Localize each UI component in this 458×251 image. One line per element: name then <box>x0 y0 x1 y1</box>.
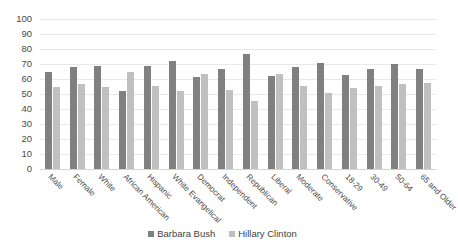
bar[interactable] <box>119 91 126 169</box>
bar[interactable] <box>102 87 109 169</box>
y-axis-tick: 60 <box>21 74 32 84</box>
bar-group <box>411 19 436 169</box>
bar-group <box>288 19 313 169</box>
bar[interactable] <box>317 63 324 170</box>
bar[interactable] <box>45 72 52 170</box>
y-axis-tick: 50 <box>21 89 32 99</box>
bar-group <box>213 19 238 169</box>
legend-swatch-icon <box>229 231 235 237</box>
x-axis-slot: Independent <box>213 171 238 223</box>
y-axis-tick: 10 <box>21 149 32 159</box>
x-axis-slot: African American <box>114 171 139 223</box>
x-axis-slot: 50-64 <box>387 171 412 223</box>
bar[interactable] <box>251 101 258 169</box>
y-axis-tick: 30 <box>21 119 32 129</box>
y-axis: 1009080706050403020100 <box>0 19 36 169</box>
bar-group <box>114 19 139 169</box>
bar-group <box>189 19 214 169</box>
bar[interactable] <box>300 86 307 169</box>
plot-area <box>40 19 436 169</box>
bar[interactable] <box>144 66 151 170</box>
bar-group <box>164 19 189 169</box>
bar[interactable] <box>218 69 225 170</box>
x-axis-slot: White <box>90 171 115 223</box>
bar[interactable] <box>169 61 176 169</box>
y-axis-tick: 0 <box>27 164 32 174</box>
bar[interactable] <box>342 75 349 169</box>
bar[interactable] <box>193 77 200 169</box>
y-axis-tick: 20 <box>21 134 32 144</box>
bar[interactable] <box>226 90 233 170</box>
x-axis-slot: Liberal <box>263 171 288 223</box>
x-axis: MaleFemaleWhiteAfrican AmericanHispanicW… <box>40 171 436 223</box>
bar[interactable] <box>53 87 60 169</box>
x-axis-slot: Conservative <box>312 171 337 223</box>
bar-group <box>238 19 263 169</box>
y-axis-tick: 100 <box>16 14 32 24</box>
legend-item[interactable]: Hillary Clinton <box>229 229 297 239</box>
bar[interactable] <box>127 72 134 169</box>
bar-group <box>312 19 337 169</box>
bar[interactable] <box>152 86 159 169</box>
bar[interactable] <box>78 84 85 170</box>
bar[interactable] <box>292 67 299 169</box>
x-axis-slot: White Evangelical <box>164 171 189 223</box>
bar-group <box>40 19 65 169</box>
legend-swatch-icon <box>148 231 154 237</box>
bar[interactable] <box>268 76 275 169</box>
bar-group <box>263 19 288 169</box>
x-axis-slot: Female <box>65 171 90 223</box>
bar[interactable] <box>391 64 398 169</box>
bar[interactable] <box>94 66 101 170</box>
bar-group <box>90 19 115 169</box>
bar[interactable] <box>177 91 184 169</box>
bar[interactable] <box>416 69 423 170</box>
y-axis-tick: 80 <box>21 44 32 54</box>
x-axis-slot: Democrat <box>189 171 214 223</box>
bar[interactable] <box>243 54 250 169</box>
y-axis-tick: 70 <box>21 59 32 69</box>
bars-layer <box>40 19 436 169</box>
bar[interactable] <box>375 86 382 169</box>
y-axis-tick: 40 <box>21 104 32 114</box>
bar[interactable] <box>350 88 357 169</box>
x-axis-slot: Moderate <box>288 171 313 223</box>
bar[interactable] <box>325 93 332 169</box>
x-axis-slot: Male <box>40 171 65 223</box>
legend-label: Hillary Clinton <box>238 229 297 239</box>
x-axis-slot: Republican <box>238 171 263 223</box>
x-axis-label: Male <box>47 173 65 191</box>
bar[interactable] <box>399 84 406 169</box>
bar-group <box>362 19 387 169</box>
bar-group <box>387 19 412 169</box>
y-axis-tick: 90 <box>21 29 32 39</box>
legend-label: Barbara Bush <box>157 229 215 239</box>
x-axis-slot: Hispanic <box>139 171 164 223</box>
axis-baseline <box>40 169 436 170</box>
bar[interactable] <box>424 83 431 169</box>
x-axis-label: 65 and Older <box>418 173 457 212</box>
x-axis-slot: 65 and Older <box>411 171 436 223</box>
bar[interactable] <box>276 74 283 169</box>
bar[interactable] <box>367 69 374 169</box>
chart-legend: Barbara BushHillary Clinton <box>0 229 445 239</box>
bar-group <box>139 19 164 169</box>
bar[interactable] <box>70 67 77 169</box>
bar-group <box>337 19 362 169</box>
x-axis-slot: 30-49 <box>362 171 387 223</box>
bar-group <box>65 19 90 169</box>
legend-item[interactable]: Barbara Bush <box>148 229 215 239</box>
x-axis-slot: 18-29 <box>337 171 362 223</box>
bar[interactable] <box>201 74 208 169</box>
